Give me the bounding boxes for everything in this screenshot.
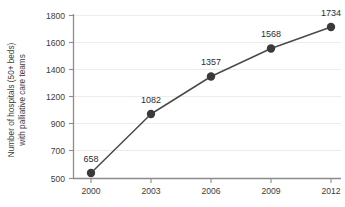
data-label-2012: 1734 (321, 8, 341, 18)
data-label-2006: 1357 (201, 57, 221, 67)
data-point-2006[interactable] (207, 72, 215, 80)
chart-canvas: 1800 1600 1400 1200 900 700 500 2000 200… (0, 0, 345, 207)
data-label-2009: 1568 (261, 29, 281, 39)
y-axis-title-line-2: with palliative care teams (18, 54, 27, 146)
x-tick-label-2003: 2003 (141, 186, 160, 196)
data-point-2003[interactable] (147, 110, 155, 118)
x-tick-label-2006: 2006 (201, 186, 220, 196)
y-tick-label-700: 700 (51, 146, 66, 156)
y-axis-title-line-1: Number of hospitals (50+ beds) (7, 43, 16, 158)
y-tick-label-1400: 1400 (46, 65, 65, 75)
data-label-2003: 1082 (141, 95, 161, 105)
x-tick-label-2000: 2000 (81, 186, 100, 196)
y-tick-label-900: 900 (51, 119, 66, 129)
y-tick-label-1600: 1600 (46, 38, 65, 48)
data-label-2000: 658 (83, 154, 98, 164)
y-tick-label-1800: 1800 (46, 11, 65, 21)
y-tick-label-500: 500 (51, 174, 66, 184)
y-axis-title: Number of hospitals (50+ beds) with pall… (7, 43, 27, 158)
data-point-2009[interactable] (267, 44, 275, 52)
x-tick-label-2009: 2009 (261, 186, 280, 196)
line-chart: 1800 1600 1400 1200 900 700 500 2000 200… (0, 0, 345, 207)
y-tick-label-1200: 1200 (46, 92, 65, 102)
data-point-2012[interactable] (327, 23, 335, 31)
data-point-2000[interactable] (87, 169, 95, 177)
x-tick-label-2012: 2012 (321, 186, 340, 196)
